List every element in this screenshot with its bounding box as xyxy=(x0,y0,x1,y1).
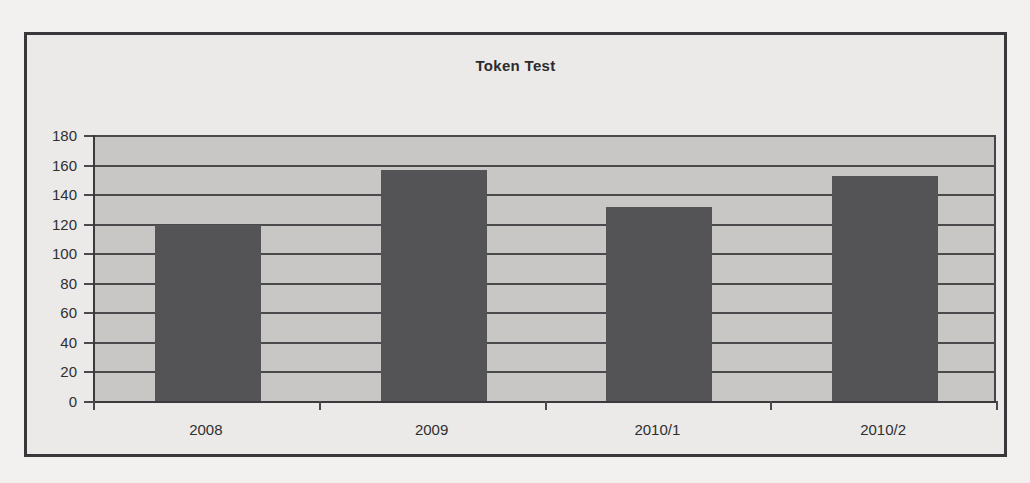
y-axis-tick xyxy=(84,135,93,137)
y-axis-tick-label: 100 xyxy=(52,245,77,262)
y-axis-tick-label: 140 xyxy=(52,186,77,203)
y-axis-tick xyxy=(84,194,93,196)
y-axis-tick xyxy=(84,342,93,344)
bar xyxy=(606,207,712,401)
x-axis-tick-label: 2008 xyxy=(189,421,222,438)
y-axis-tick-label: 60 xyxy=(60,304,77,321)
y-axis-labels: 020406080100120140160180 xyxy=(27,135,93,401)
bar-series xyxy=(95,135,996,401)
y-axis-tick xyxy=(84,253,93,255)
x-axis-tick xyxy=(93,401,95,410)
y-axis-tick-label: 20 xyxy=(60,363,77,380)
y-axis-tick-label: 180 xyxy=(52,127,77,144)
y-axis-tick-label: 40 xyxy=(60,333,77,350)
y-axis-tick-label: 80 xyxy=(60,274,77,291)
bar xyxy=(155,225,261,401)
y-axis-tick xyxy=(84,371,93,373)
scanned-page: Token Test 020406080100120140160180 2008… xyxy=(0,0,1030,483)
x-axis-tick-label: 2010/1 xyxy=(634,421,680,438)
x-axis-tick-label: 2010/2 xyxy=(860,421,906,438)
x-axis: 200820092010/12010/2 xyxy=(93,401,994,459)
y-axis-tick xyxy=(84,283,93,285)
x-axis-tick xyxy=(319,401,321,410)
y-axis-tick-label: 0 xyxy=(69,393,77,410)
bar xyxy=(381,170,487,401)
y-axis-tick xyxy=(84,312,93,314)
x-axis-tick-label: 2009 xyxy=(415,421,448,438)
y-axis-tick xyxy=(84,165,93,167)
chart-frame: Token Test 020406080100120140160180 2008… xyxy=(24,32,1007,457)
x-axis-tick xyxy=(996,401,998,410)
chart-title: Token Test xyxy=(27,57,1004,74)
y-axis-tick xyxy=(84,224,93,226)
y-axis-tick xyxy=(84,401,93,403)
bar xyxy=(832,176,938,401)
plot-area xyxy=(93,135,996,401)
y-axis-tick-label: 160 xyxy=(52,156,77,173)
y-axis-tick-label: 120 xyxy=(52,215,77,232)
x-axis-tick xyxy=(770,401,772,410)
x-axis-tick xyxy=(545,401,547,410)
